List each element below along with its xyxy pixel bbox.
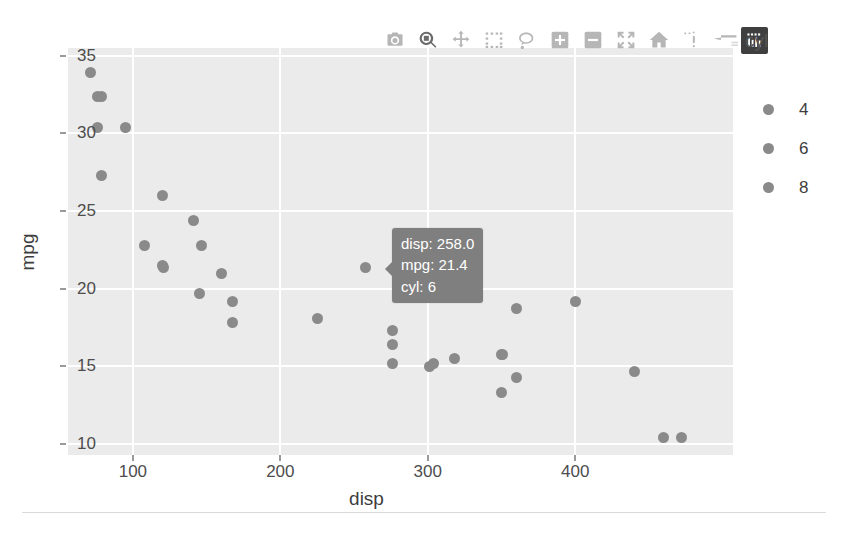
lasso-select-icon[interactable] (510, 24, 543, 56)
download-plot-as-png-icon[interactable] (378, 24, 411, 56)
data-point[interactable] (312, 313, 323, 324)
data-point[interactable] (96, 91, 107, 102)
data-point[interactable] (227, 296, 238, 307)
hover-tooltip: disp: 258.0 mpg: 21.4 cyl: 6 (392, 228, 483, 303)
gridline-horizontal (68, 210, 733, 212)
legend-item-label: 6 (799, 139, 808, 159)
tooltip-line-mpg: mpg: 21.4 (401, 254, 474, 275)
x-axis-tick-mark (279, 455, 281, 461)
data-point[interactable] (511, 372, 522, 383)
zoom-in-icon[interactable] (543, 24, 576, 56)
tooltip-line-cyl: cyl: 6 (401, 276, 474, 297)
data-point[interactable] (120, 122, 131, 133)
y-axis-tick-mark (60, 365, 66, 367)
zoom-icon[interactable] (411, 24, 444, 56)
data-point[interactable] (157, 190, 168, 201)
tooltip-line-disp: disp: 258.0 (401, 233, 474, 254)
autoscale-icon[interactable] (609, 24, 642, 56)
y-axis-tick-label: 35 (77, 46, 96, 66)
gridline-vertical (132, 48, 134, 455)
y-axis-tick-label: 15 (77, 356, 96, 376)
y-axis-tick-mark (60, 55, 66, 57)
y-axis-tick-label: 10 (77, 434, 96, 454)
legend-title: cyl (745, 30, 768, 52)
legend-swatch-icon (763, 143, 774, 154)
x-axis-tick-label: 200 (266, 462, 294, 482)
data-point[interactable] (360, 262, 371, 273)
data-point[interactable] (139, 240, 150, 251)
data-point[interactable] (511, 303, 522, 314)
y-axis-tick-label: 25 (77, 201, 96, 221)
data-point[interactable] (196, 240, 207, 251)
data-point[interactable] (85, 67, 96, 78)
y-axis-tick-mark (60, 210, 66, 212)
legend: cyl 468 (752, 90, 842, 207)
data-point[interactable] (227, 317, 238, 328)
zoom-out-icon[interactable] (576, 24, 609, 56)
x-axis-tick-mark (574, 455, 576, 461)
y-axis-tick-label: 30 (77, 123, 96, 143)
reset-axes-home-icon[interactable] (642, 24, 675, 56)
y-axis-title: mpg (17, 192, 39, 312)
legend-item-label: 4 (799, 100, 808, 120)
data-point[interactable] (387, 358, 398, 369)
tooltip-arrow (385, 262, 392, 276)
legend-item-8[interactable]: 8 (752, 168, 842, 207)
data-point[interactable] (658, 432, 669, 443)
data-point[interactable] (497, 349, 508, 360)
toggle-spike-lines-icon[interactable] (675, 24, 708, 56)
hover-compare-data-icon[interactable] (708, 24, 741, 56)
data-point[interactable] (96, 170, 107, 181)
legend-item-label: 8 (799, 178, 808, 198)
gridline-horizontal (68, 132, 733, 134)
y-axis-tick-label: 20 (77, 279, 96, 299)
data-point[interactable] (216, 268, 227, 279)
gridline-vertical (574, 48, 576, 455)
data-point[interactable] (158, 262, 169, 273)
data-point[interactable] (629, 366, 640, 377)
data-point[interactable] (676, 432, 687, 443)
data-point[interactable] (387, 339, 398, 350)
legend-swatch-icon (763, 182, 774, 193)
legend-item-6[interactable]: 6 (752, 129, 842, 168)
data-point[interactable] (194, 288, 205, 299)
box-select-icon[interactable] (477, 24, 510, 56)
data-point[interactable] (449, 353, 460, 364)
data-point[interactable] (570, 296, 581, 307)
modebar[interactable] (378, 24, 768, 56)
legend-swatch-icon (763, 104, 774, 115)
data-point[interactable] (496, 387, 507, 398)
gridline-horizontal (68, 443, 733, 445)
y-axis-tick-mark (60, 288, 66, 290)
x-axis-tick-label: 400 (561, 462, 589, 482)
pan-icon[interactable] (444, 24, 477, 56)
data-point[interactable] (387, 325, 398, 336)
x-axis-tick-mark (427, 455, 429, 461)
data-point[interactable] (428, 358, 439, 369)
plot-root: 101520253035100200300400 mpg disp cyl cy… (0, 0, 848, 515)
data-point[interactable] (188, 215, 199, 226)
footer-divider (22, 512, 826, 513)
x-axis-title: disp (0, 488, 848, 510)
gridline-vertical (279, 48, 281, 455)
x-axis-tick-label: 300 (414, 462, 442, 482)
x-axis-tick-label: 100 (119, 462, 147, 482)
legend-item-4[interactable]: 4 (752, 90, 842, 129)
y-axis-tick-mark (60, 443, 66, 445)
y-axis-tick-mark (60, 132, 66, 134)
x-axis-tick-mark (132, 455, 134, 461)
